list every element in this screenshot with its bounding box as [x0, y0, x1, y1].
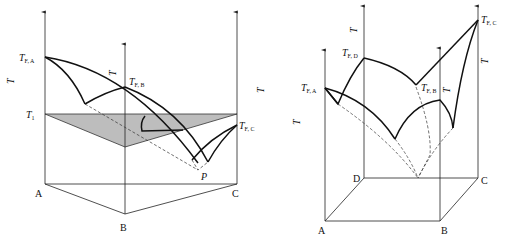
isotherm-plane — [45, 114, 237, 147]
corner-c-right: C — [481, 175, 488, 186]
liquidus-a-b-edge — [45, 57, 85, 104]
liquidus-a-c-edge — [45, 57, 198, 163]
composition-square — [325, 178, 478, 221]
quaternary-prism-diagram: TF, A TF, D TF, B TF, C T T T T T A B C … — [255, 6, 496, 236]
phase-diagrams: TF, A TF, B TF, C T1 P T T A B C TF, A — [0, 0, 510, 237]
label-t1: T1 — [26, 109, 35, 121]
liquidus-a-b — [325, 88, 395, 139]
label-tfb-right: TF, B — [421, 82, 436, 94]
liquidus-b-c — [416, 20, 478, 85]
axis-label-t-4: T — [441, 86, 452, 93]
axis-label-t-left: T — [5, 77, 16, 84]
axis-label-t-5: T — [479, 57, 490, 64]
liquidus-a-d — [325, 58, 364, 104]
eutectic-valley-4 — [418, 128, 453, 178]
liquidus-d-b — [364, 58, 416, 85]
axis-label-t-3: T — [348, 26, 359, 33]
label-tfa: TF, A — [19, 52, 35, 64]
label-tfc-right: TF, C — [481, 14, 496, 26]
liquidus-b-a — [85, 87, 125, 104]
axis-label-t-b: T — [107, 69, 118, 76]
eutectic-valley-1 — [338, 104, 418, 178]
liquidus-c-side — [192, 125, 237, 160]
eutectic-valley-2 — [395, 139, 418, 178]
liquidus-c-side — [453, 20, 478, 128]
ternary-prism-diagram: TF, A TF, B TF, C T1 P T T A B C — [5, 12, 254, 233]
corner-d-right: D — [353, 173, 360, 184]
liquidus-c-side2 — [208, 125, 237, 162]
label-tfc: TF, C — [239, 120, 254, 132]
corner-b-right: B — [441, 225, 448, 236]
corner-b: B — [120, 222, 127, 233]
eutectic-valley-bc — [192, 160, 208, 170]
axis-label-t-2: T — [291, 118, 302, 125]
label-tfb: TF, B — [129, 76, 144, 88]
eutectic-valley-3 — [416, 87, 430, 178]
liquidus-b-peak — [395, 100, 453, 139]
label-p: P — [200, 171, 207, 182]
label-tfa-right: TF, A — [301, 82, 317, 94]
corner-c: C — [232, 188, 239, 199]
corner-a: A — [35, 188, 43, 199]
corner-a-right: A — [318, 225, 326, 236]
axis-label-t-1: T — [255, 86, 266, 93]
label-tfd-right: TF, D — [342, 47, 358, 59]
composition-triangle — [45, 184, 237, 214]
